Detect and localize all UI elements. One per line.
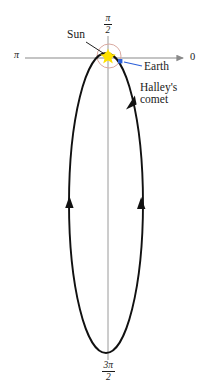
halleys-comet-label: Halley's comet [140,81,186,105]
orbit-direction-marker-right [137,197,145,209]
three-pi-over-two-denominator: 2 [102,372,115,383]
earth-leader-line [124,62,142,66]
three-pi-over-two-numerator: 3π [102,360,115,372]
earth-marker [118,59,122,63]
earth-label: Earth [144,60,169,72]
halleys-comet-label-line1: Halley's [140,81,186,93]
orbit-direction-marker-left [65,196,73,208]
sun-label: Sun [67,28,85,40]
axis-label-zero: 0 [190,51,195,62]
halleys-comet-orbit-figure: Sun Earth Halley's comet π 0 π 2 3π 2 [0,0,206,391]
axis-label-pi-over-two: π 2 [104,13,112,36]
diagram-canvas [0,0,206,391]
pi-over-two-denominator: 2 [104,25,112,36]
comet-orbit-ellipse [69,53,143,353]
halleys-comet-label-line2: comet [140,93,186,105]
axis-label-pi: π [14,50,19,61]
axis-label-three-pi-over-two: 3π 2 [102,360,115,383]
pi-over-two-numerator: π [104,13,112,25]
